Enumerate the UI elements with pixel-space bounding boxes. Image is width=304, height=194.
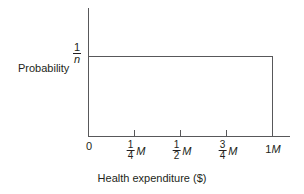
x-tick-mark-half-m [180,130,181,136]
x-axis-line [88,136,290,137]
y-tick-label-one-over-n: 1 n [70,42,84,65]
x-tick-label-zero-text: 0 [86,140,92,152]
x-tick-mark-three-quarter-m [226,130,227,136]
uniform-density-right-drop-line [272,56,273,137]
x-tick-mark-quarter-m [134,130,135,136]
x-axis-title: Health expenditure ($) [0,172,304,184]
uniform-density-plateau-line [88,56,273,57]
fraction-denominator: 2 [173,150,181,161]
fraction-numerator: 1 [173,140,181,150]
x-tick-unit-m: M [228,145,237,157]
y-axis-line [88,8,89,137]
x-tick-unit-m: M [182,145,191,157]
chart-figure: 1 n Probability 0 1 4 M 1 2 M 3 4 M 1M H… [0,0,304,194]
x-tick-label-half-m: 1 2 M [173,140,192,161]
x-tick-label-quarter-m: 1 4 M [127,140,146,161]
y-axis-title: Probability [18,62,69,75]
fraction-one-half: 1 2 [173,140,181,161]
x-tick-unit-m: M [136,145,145,157]
fraction-three-quarters: 3 4 [219,140,227,161]
x-tick-unit-m: M [271,143,280,155]
x-tick-label-three-quarter-m: 3 4 M [219,140,238,161]
fraction-one-over-n: 1 n [73,42,81,65]
fraction-denominator: n [73,53,81,65]
fraction-numerator: 3 [219,140,227,150]
fraction-numerator: 1 [127,140,135,150]
fraction-denominator: 4 [127,150,135,161]
fraction-denominator: 4 [219,150,227,161]
x-tick-label-zero: 0 [86,140,92,152]
fraction-numerator: 1 [73,42,81,53]
fraction-one-quarter: 1 4 [127,140,135,161]
x-tick-label-one-m: 1M [265,143,280,155]
